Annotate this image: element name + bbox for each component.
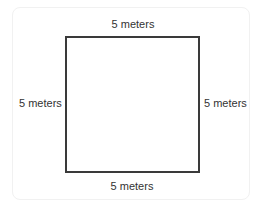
top-side-label: 5 meters bbox=[0, 18, 258, 31]
right-side-label: 5 meters bbox=[204, 97, 247, 110]
bottom-side-label: 5 meters bbox=[0, 180, 258, 193]
square-shape bbox=[65, 36, 200, 173]
left-side-label: 5 meters bbox=[19, 97, 62, 110]
